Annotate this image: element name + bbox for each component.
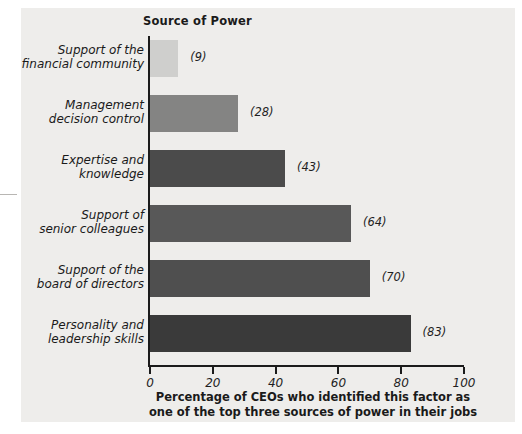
- category-label-0-line1: Support of the: [58, 43, 144, 57]
- category-label-1-line2: decision control: [49, 112, 144, 126]
- x-tick-label-1: 20: [205, 376, 220, 390]
- x-tick-label-0: 0: [146, 376, 154, 390]
- bar-3[interactable]: [150, 205, 351, 242]
- category-label-4-line1: Support of the: [58, 263, 144, 277]
- chart-page: Source of Power Support of the financial…: [0, 0, 522, 434]
- category-label-3: Support of senior colleagues: [16, 208, 144, 236]
- x-axis-caption: Percentage of CEOs who identified this f…: [148, 390, 478, 419]
- category-label-2-line1: Expertise and: [61, 153, 144, 167]
- category-label-3-line1: Support of: [81, 208, 144, 222]
- category-label-1: Management decision control: [16, 98, 144, 126]
- x-tick-1: [212, 367, 214, 374]
- bar-value-0: (9): [190, 50, 206, 64]
- bar-value-2: (43): [297, 160, 321, 174]
- x-tick-label-2: 40: [268, 376, 283, 390]
- x-axis-caption-line1: Percentage of CEOs who identified this f…: [148, 390, 478, 405]
- bar-value-5: (83): [423, 325, 447, 339]
- x-axis-caption-line2: one of the top three sources of power in…: [148, 405, 478, 420]
- bar-5[interactable]: [150, 315, 411, 352]
- category-label-4-line2: board of directors: [37, 277, 144, 291]
- category-label-0: Support of the financial community: [16, 43, 144, 71]
- bar-0[interactable]: [150, 40, 178, 77]
- category-label-5-line2: leadership skills: [48, 332, 144, 346]
- category-label-5-line1: Personality and: [51, 318, 144, 332]
- category-label-5: Personality and leadership skills: [16, 318, 144, 346]
- bar-value-3: (64): [363, 215, 387, 229]
- bar-value-1: (28): [250, 105, 274, 119]
- category-axis-labels: Support of the financial community Manag…: [14, 36, 144, 367]
- category-label-2: Expertise and knowledge: [16, 153, 144, 181]
- x-tick-0: [149, 367, 151, 374]
- x-tick-3: [337, 367, 339, 374]
- category-label-2-line2: knowledge: [79, 167, 144, 181]
- bar-1[interactable]: [150, 95, 238, 132]
- x-tick-2: [275, 367, 277, 374]
- category-label-4: Support of the board of directors: [16, 263, 144, 291]
- category-label-3-line2: senior colleagues: [39, 222, 144, 236]
- category-label-1-line1: Management: [65, 98, 144, 112]
- x-tick-label-4: 80: [394, 376, 409, 390]
- x-tick-label-5: 100: [453, 376, 476, 390]
- x-axis-line: [148, 365, 464, 367]
- plot-area: (9) (28) (43) (64) (70) (83) 0 20 40 60 …: [148, 36, 487, 367]
- bar-2[interactable]: [150, 150, 285, 187]
- chart-title: Source of Power: [62, 14, 252, 28]
- x-tick-4: [400, 367, 402, 374]
- x-tick-label-3: 60: [331, 376, 346, 390]
- category-label-0-line2: financial community: [22, 57, 144, 71]
- x-tick-5: [463, 367, 465, 374]
- bar-value-4: (70): [382, 270, 406, 284]
- bar-4[interactable]: [150, 260, 370, 297]
